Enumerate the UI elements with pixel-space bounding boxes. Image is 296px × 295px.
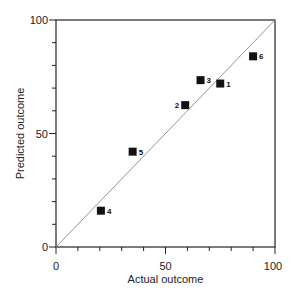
x-tick-label-0: 0	[53, 260, 59, 272]
point-label: 3	[207, 76, 212, 85]
x-tick-label-50: 50	[159, 260, 171, 272]
point-label: 6	[259, 52, 264, 61]
square-marker-icon	[129, 148, 137, 156]
data-point-4: 4	[97, 207, 112, 216]
square-marker-icon	[249, 52, 257, 60]
point-label: 5	[139, 148, 144, 157]
identity-line	[56, 20, 275, 247]
scatter-chart: 0 50 100 0 50 100 Actual outcome Predict…	[0, 0, 296, 295]
data-point-3: 3	[197, 76, 212, 85]
point-label: 1	[226, 80, 231, 89]
data-point-2: 2	[175, 101, 189, 110]
x-axis-ticks	[56, 247, 275, 254]
y-tick-label-0: 0	[42, 241, 48, 253]
data-points: 123456	[97, 52, 264, 215]
square-marker-icon	[97, 207, 105, 215]
y-tick-label-50: 50	[36, 128, 48, 140]
data-point-6: 6	[249, 52, 264, 61]
data-point-1: 1	[216, 80, 231, 89]
y-axis-tick-labels: 0 50 100	[30, 14, 48, 253]
x-axis-title: Actual outcome	[128, 273, 204, 285]
x-axis-tick-labels: 0 50 100	[53, 260, 282, 272]
y-axis-ticks	[49, 20, 56, 247]
y-tick-label-100: 100	[30, 14, 48, 26]
square-marker-icon	[181, 101, 189, 109]
y-axis-title: Predicted outcome	[14, 88, 26, 180]
point-label: 4	[107, 207, 112, 216]
square-marker-icon	[197, 76, 205, 84]
square-marker-icon	[216, 80, 224, 88]
point-label: 2	[175, 101, 180, 110]
data-point-5: 5	[129, 148, 144, 157]
identity-line-path	[56, 20, 275, 247]
x-tick-label-100: 100	[264, 260, 282, 272]
